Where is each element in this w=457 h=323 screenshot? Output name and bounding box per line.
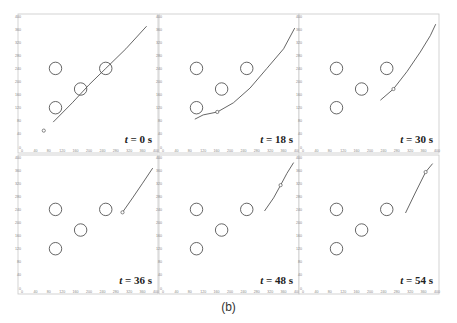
x-tick-label: 120 (200, 290, 206, 294)
x-tick-label: 80 (188, 149, 192, 153)
y-tick-label: 280 (296, 195, 302, 199)
x-tick-label: 400 (153, 149, 159, 153)
x-tick-label: 280 (113, 149, 119, 153)
y-tick-label: 40 (17, 132, 21, 136)
x-tick-label: 160 (354, 290, 360, 294)
y-tick-label: 320 (296, 182, 302, 186)
y-tick-label: 120 (156, 247, 162, 251)
y-tick-label: 320 (156, 182, 162, 186)
x-tick-label: 0 (162, 290, 164, 294)
time-label: t = 0 s (125, 133, 153, 145)
x-tick-label: 160 (354, 149, 360, 153)
x-tick-label: 360 (281, 290, 287, 294)
agent-marker (216, 110, 219, 113)
y-tick-label: 160 (15, 234, 21, 238)
y-tick-label: 200 (15, 221, 21, 225)
y-tick-label: 120 (296, 106, 302, 110)
x-tick-label: 80 (328, 149, 332, 153)
y-tick-label: 80 (298, 260, 302, 264)
y-tick-label: 240 (156, 208, 162, 212)
y-tick-label: 280 (15, 54, 21, 58)
y-tick-label: 200 (156, 80, 162, 84)
x-tick-label: 160 (214, 149, 220, 153)
x-tick-label: 400 (434, 290, 440, 294)
y-tick-label: 400 (296, 156, 302, 160)
y-tick-label: 360 (15, 28, 21, 32)
x-tick-label: 120 (340, 290, 346, 294)
x-tick-label: 240 (240, 149, 246, 153)
y-tick-label: 240 (15, 208, 21, 212)
x-tick-label: 200 (367, 149, 373, 153)
x-tick-label: 360 (281, 149, 287, 153)
y-tick-label: 320 (15, 41, 21, 45)
x-tick-label: 320 (267, 149, 273, 153)
x-tick-label: 320 (126, 149, 132, 153)
x-tick-label: 200 (227, 149, 233, 153)
y-tick-label: 160 (156, 234, 162, 238)
y-tick-label: 80 (298, 119, 302, 123)
x-tick-label: 120 (200, 149, 206, 153)
y-tick-label: 120 (15, 106, 21, 110)
y-tick-label: 400 (156, 156, 162, 160)
x-tick-label: 120 (59, 290, 65, 294)
y-tick-label: 80 (158, 119, 162, 123)
y-tick-label: 320 (296, 41, 302, 45)
y-tick-label: 360 (15, 169, 21, 173)
x-tick-label: 360 (421, 149, 427, 153)
time-label: t = 54 s (400, 274, 434, 286)
time-label: t = 18 s (260, 133, 294, 145)
x-tick-label: 280 (394, 149, 400, 153)
panel-5: 0408012016020024028032036040004080120160… (156, 155, 300, 294)
x-tick-label: 0 (302, 149, 304, 153)
x-tick-label: 160 (214, 290, 220, 294)
x-tick-label: 0 (302, 290, 304, 294)
y-tick-label: 360 (156, 28, 162, 32)
agent-marker (392, 87, 395, 90)
x-tick-label: 280 (254, 290, 260, 294)
y-tick-label: 160 (15, 93, 21, 97)
y-tick-label: 40 (298, 273, 302, 277)
y-tick-label: 240 (296, 67, 302, 71)
x-tick-label: 280 (394, 290, 400, 294)
y-tick-label: 160 (296, 93, 302, 97)
x-tick-label: 240 (380, 149, 386, 153)
y-tick-label: 40 (158, 273, 162, 277)
x-tick-label: 320 (407, 149, 413, 153)
x-tick-label: 80 (47, 290, 51, 294)
y-tick-label: 400 (296, 15, 302, 19)
agent-marker (42, 129, 45, 132)
x-tick-label: 0 (162, 149, 164, 153)
x-tick-label: 360 (421, 290, 427, 294)
x-tick-label: 320 (407, 290, 413, 294)
x-tick-label: 40 (33, 149, 37, 153)
time-label: t = 48 s (260, 274, 294, 286)
x-tick-label: 200 (86, 290, 92, 294)
x-tick-label: 40 (174, 290, 178, 294)
x-tick-label: 120 (59, 149, 65, 153)
y-tick-label: 80 (17, 260, 21, 264)
x-tick-label: 280 (113, 290, 119, 294)
x-tick-label: 160 (73, 290, 79, 294)
x-tick-label: 320 (126, 290, 132, 294)
y-tick-label: 200 (156, 221, 162, 225)
y-tick-label: 40 (17, 273, 21, 277)
figure-grid: 0408012016020024028032036040004080120160… (0, 0, 457, 323)
agent-marker (121, 211, 124, 214)
y-tick-label: 240 (296, 208, 302, 212)
x-tick-label: 360 (140, 290, 146, 294)
x-tick-label: 240 (380, 290, 386, 294)
y-tick-label: 320 (15, 182, 21, 186)
panel-2: 0408012016020024028032036040004080120160… (156, 14, 300, 153)
y-tick-label: 80 (158, 260, 162, 264)
time-label: t = 36 s (119, 274, 153, 286)
y-tick-label: 200 (296, 221, 302, 225)
y-tick-label: 40 (298, 132, 302, 136)
y-tick-label: 280 (156, 54, 162, 58)
time-label: t = 30 s (400, 133, 434, 145)
y-tick-label: 120 (15, 247, 21, 251)
y-tick-label: 200 (15, 80, 21, 84)
y-tick-label: 400 (156, 15, 162, 19)
figure-caption: (b) (0, 300, 457, 314)
y-tick-label: 320 (156, 41, 162, 45)
x-tick-label: 40 (314, 149, 318, 153)
